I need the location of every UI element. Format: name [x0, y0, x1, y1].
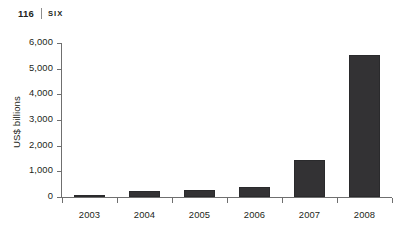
- x-axis-tick-label: 2008: [337, 209, 392, 220]
- bar: [239, 187, 270, 197]
- y-axis-tick-label: 3,000: [29, 113, 53, 124]
- y-axis-tick-label: 5,000: [29, 62, 53, 73]
- bar: [294, 160, 325, 197]
- y-axis-tick: 5,000: [57, 69, 62, 70]
- x-axis-tick-label: 2006: [227, 209, 282, 220]
- x-axis-tick: [392, 198, 393, 203]
- x-axis-tick: [62, 198, 63, 203]
- y-axis-tick: 3,000: [57, 120, 62, 121]
- page-number: 116: [18, 8, 34, 19]
- y-axis-tick-label: 2,000: [29, 139, 53, 150]
- y-axis-title: US$ billions: [10, 36, 24, 208]
- y-axis-tick: 6,000: [57, 43, 62, 44]
- bar-chart: US$ billions 01,0002,0003,0004,0005,0006…: [0, 26, 399, 234]
- x-axis-tick-label: 2003: [62, 209, 117, 220]
- x-axis-tick: [227, 198, 228, 203]
- y-axis-tick: 2,000: [57, 146, 62, 147]
- bar: [349, 55, 380, 197]
- y-axis-tick: 1,000: [57, 171, 62, 172]
- runhead-divider: [41, 8, 42, 19]
- x-axis-tick-label: 2007: [282, 209, 337, 220]
- x-axis-tick: [337, 198, 338, 203]
- bar: [184, 190, 215, 197]
- y-axis-tick: 4,000: [57, 94, 62, 95]
- x-axis-tick: [282, 198, 283, 203]
- plot-area: 01,0002,0003,0004,0005,0006,000200320042…: [62, 43, 392, 197]
- section-name: SIX: [48, 9, 64, 18]
- y-axis-tick-label: 0: [48, 190, 53, 201]
- bar: [129, 191, 160, 197]
- y-axis-tick-label: 4,000: [29, 87, 53, 98]
- x-axis-tick-label: 2004: [117, 209, 172, 220]
- x-axis-tick-label: 2005: [172, 209, 227, 220]
- running-head: 116 SIX: [18, 6, 63, 20]
- y-axis-tick-label: 1,000: [29, 164, 53, 175]
- bar: [74, 195, 105, 197]
- y-axis-tick-label: 6,000: [29, 36, 53, 47]
- x-axis-tick: [172, 198, 173, 203]
- x-axis-tick: [117, 198, 118, 203]
